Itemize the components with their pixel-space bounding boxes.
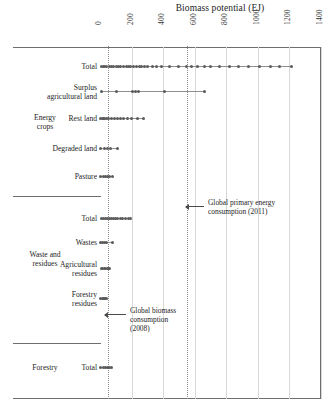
category-label-line: Degraded land bbox=[11, 144, 97, 153]
data-point bbox=[177, 65, 180, 68]
data-point bbox=[116, 147, 119, 150]
category-label: Surplusagricultural land bbox=[11, 83, 97, 101]
data-point bbox=[228, 65, 231, 68]
chart-figure: Biomass potential (EJ) 02004006008001000… bbox=[0, 0, 331, 411]
x-tick-label: 200 bbox=[126, 13, 135, 25]
data-point bbox=[142, 117, 145, 120]
x-tick-label: 1000 bbox=[252, 9, 261, 25]
data-point bbox=[129, 217, 132, 220]
group-label-line: Waste and bbox=[13, 250, 77, 259]
group-label: Waste andresidues bbox=[13, 250, 77, 268]
category-label-line: agricultural land bbox=[11, 92, 97, 101]
annotation-arrow bbox=[189, 206, 204, 207]
gridline bbox=[226, 47, 227, 399]
category-label: Pasture bbox=[11, 172, 97, 181]
category-label-line: Surplus bbox=[11, 83, 97, 92]
category-label: Total bbox=[11, 214, 97, 223]
data-point bbox=[151, 65, 154, 68]
group-label: Energycrops bbox=[13, 113, 77, 131]
x-tick-label: 0 bbox=[94, 21, 103, 25]
data-point bbox=[269, 65, 272, 68]
data-point bbox=[196, 65, 199, 68]
annotation-arrowhead-icon bbox=[104, 312, 108, 318]
group-separator bbox=[13, 196, 101, 197]
gridline bbox=[289, 47, 290, 399]
data-point bbox=[163, 90, 166, 93]
group-label-line: Forestry bbox=[13, 363, 77, 372]
x-tick-label: 1400 bbox=[315, 9, 324, 25]
annotation-arrow bbox=[108, 314, 126, 315]
data-point bbox=[247, 65, 250, 68]
annotation-arrowhead-icon bbox=[185, 204, 189, 210]
data-point bbox=[168, 65, 171, 68]
x-tick-label: 600 bbox=[189, 13, 198, 25]
data-point bbox=[190, 65, 193, 68]
data-point bbox=[111, 241, 114, 244]
group-label-line: Energy bbox=[13, 113, 77, 122]
annotation-line: Global primary energy bbox=[208, 198, 275, 207]
data-point bbox=[130, 117, 133, 120]
gridline bbox=[258, 47, 259, 399]
group-label-line: residues bbox=[13, 259, 77, 268]
category-label-line: Pasture bbox=[11, 172, 97, 181]
data-point bbox=[110, 366, 113, 369]
group-separator bbox=[13, 343, 101, 344]
annotation-line: (2008) bbox=[130, 324, 176, 333]
data-point bbox=[111, 175, 114, 178]
group-label-line: crops bbox=[13, 122, 77, 131]
data-point bbox=[99, 147, 102, 150]
annotation-line: Global biomass bbox=[130, 306, 176, 315]
data-point bbox=[209, 65, 212, 68]
category-label-line: residues bbox=[11, 269, 97, 278]
reference-line bbox=[108, 46, 109, 399]
category-label-line: Wastes bbox=[11, 238, 97, 247]
data-point bbox=[290, 65, 293, 68]
annotation-line: consumption (2011) bbox=[208, 207, 275, 216]
gridline bbox=[132, 47, 133, 399]
data-point bbox=[136, 117, 139, 120]
data-point bbox=[122, 117, 125, 120]
category-label-line: residues bbox=[11, 299, 97, 308]
category-label: Total bbox=[11, 62, 97, 71]
annotation-line: consumption bbox=[130, 315, 176, 324]
data-point bbox=[203, 90, 206, 93]
annotation-label: Global primary energyconsumption (2011) bbox=[208, 198, 275, 216]
data-point bbox=[126, 117, 129, 120]
data-point bbox=[100, 90, 103, 93]
data-point bbox=[155, 65, 158, 68]
data-point bbox=[185, 65, 188, 68]
gridline bbox=[195, 47, 196, 399]
x-tick-label: 1200 bbox=[283, 9, 292, 25]
data-point bbox=[258, 65, 261, 68]
data-point bbox=[137, 90, 140, 93]
category-label-line: Total bbox=[11, 62, 97, 71]
category-label: Degraded land bbox=[11, 144, 97, 153]
category-label: Wastes bbox=[11, 238, 97, 247]
data-point bbox=[108, 267, 111, 270]
category-label: Forestryresidues bbox=[11, 290, 97, 308]
data-point bbox=[115, 90, 118, 93]
gridline bbox=[163, 47, 164, 399]
annotation-label: Global biomassconsumption(2008) bbox=[130, 306, 176, 334]
x-tick-label: 800 bbox=[220, 13, 229, 25]
data-point bbox=[203, 65, 206, 68]
data-point bbox=[237, 65, 240, 68]
category-label-line: Forestry bbox=[11, 290, 97, 299]
x-tick-label: 400 bbox=[157, 13, 166, 25]
data-point bbox=[109, 147, 112, 150]
plot-area bbox=[100, 47, 321, 399]
group-label: Forestry bbox=[13, 363, 77, 372]
gridline bbox=[321, 47, 322, 399]
data-point bbox=[146, 65, 149, 68]
reference-line bbox=[187, 46, 188, 399]
category-label-line: Total bbox=[11, 214, 97, 223]
